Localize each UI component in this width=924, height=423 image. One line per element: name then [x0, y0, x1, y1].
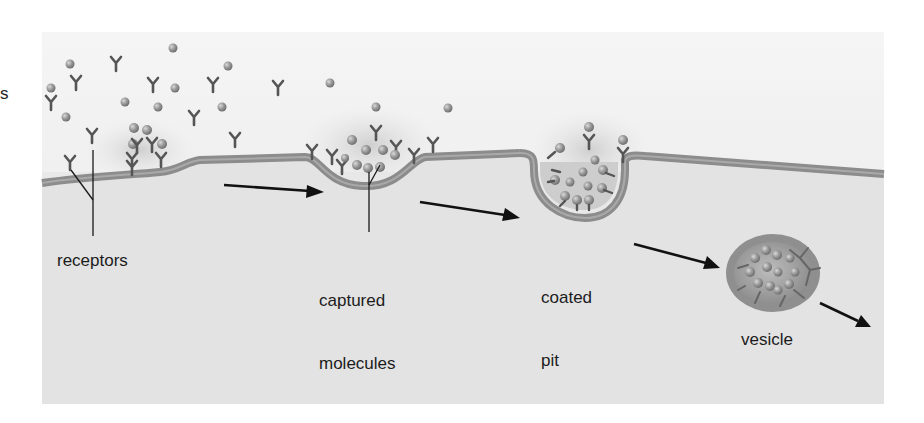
label-captured-molecules: captured molecules [319, 248, 396, 416]
label-captured-line1: captured [319, 290, 396, 311]
vesicle-illustration [726, 234, 820, 312]
label-captured-line2: molecules [319, 353, 396, 374]
endocytosis-diagram: s receptors captured molecules coated pi… [0, 0, 924, 423]
diagram-canvas [0, 0, 924, 423]
label-coated-line1: coated [541, 287, 592, 308]
label-vesicle: vesicle [741, 329, 793, 350]
label-coated-line2: pit [541, 350, 592, 371]
label-coated-pit: coated pit [541, 245, 592, 413]
label-receptors: receptors [57, 250, 128, 271]
cut-off-label-fragment: s [0, 84, 9, 104]
